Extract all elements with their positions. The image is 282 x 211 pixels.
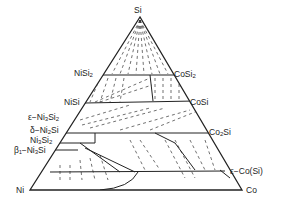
triangle-outline bbox=[30, 17, 242, 190]
label-ni3si2: Ni3Si2 bbox=[30, 136, 52, 145]
vertex-ni: Ni bbox=[16, 186, 24, 195]
label-co2si: Co2Si bbox=[209, 128, 231, 137]
label-nisi: NiSi bbox=[64, 98, 80, 107]
ternary-diagram bbox=[0, 0, 282, 211]
label-cosi: CoSi bbox=[190, 98, 208, 107]
label-eps-ni3si2: ε−Ni3Si2 bbox=[28, 113, 59, 122]
vertex-si: Si bbox=[134, 6, 142, 15]
label-eps-co: ε−Co(Si) bbox=[230, 167, 263, 176]
label-beta1-ni3si: β₁−Ni3Si bbox=[14, 146, 46, 155]
label-delta-ni2si: δ−Ni2Si bbox=[30, 126, 59, 135]
vertex-co: Co bbox=[246, 186, 257, 195]
label-cosi2: CoSi2 bbox=[174, 70, 196, 79]
label-nisi2: NiSi2 bbox=[74, 69, 93, 78]
